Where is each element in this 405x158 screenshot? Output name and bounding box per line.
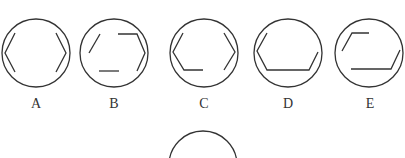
option-a-figure[interactable] [2, 19, 70, 87]
option-d-circle [254, 19, 322, 87]
option-b-left-slash [89, 34, 100, 53]
puzzle-figure [0, 0, 405, 158]
option-a-left-chevron [5, 33, 15, 72]
question-circle [169, 131, 237, 158]
option-e-bottom-path [351, 50, 400, 69]
option-b-circle [80, 19, 148, 87]
option-c-circle [170, 19, 238, 87]
option-c-right-chevron [224, 33, 235, 70]
option-b-top-right-path [118, 34, 145, 71]
option-b-figure[interactable] [80, 19, 148, 87]
option-c-figure[interactable] [170, 19, 238, 87]
option-a-circle [2, 19, 70, 87]
option-a-label: A [26, 96, 46, 112]
option-e-top-path [342, 33, 369, 51]
option-d-figure[interactable] [254, 19, 322, 87]
option-a-right-chevron [56, 33, 66, 72]
option-b-label: B [104, 96, 124, 112]
option-c-label: C [194, 96, 214, 112]
option-d-path [257, 33, 318, 70]
option-d-label: D [278, 96, 298, 112]
option-c-left-bottom-path [173, 33, 203, 70]
option-e-label: E [360, 96, 380, 112]
option-e-figure[interactable] [335, 19, 403, 87]
option-e-circle [335, 19, 403, 87]
